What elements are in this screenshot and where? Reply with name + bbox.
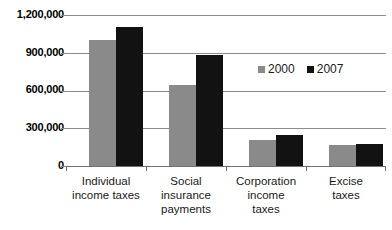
y-axis-label-600000: 600,000 xyxy=(0,84,64,95)
legend-entry-2000: 2000 xyxy=(258,62,295,76)
bar-corporation-income-taxes-2000 xyxy=(249,140,276,166)
legend-swatch-2007-icon xyxy=(307,66,314,73)
bar-individual-income-taxes-2000 xyxy=(89,40,116,166)
bar-excise-taxes-2000 xyxy=(329,145,356,166)
y-axis-label-0: 0 xyxy=(0,160,64,171)
x-tick-1 xyxy=(146,166,147,171)
y-tick-300000 xyxy=(61,128,66,129)
y-tick-1200000 xyxy=(61,15,66,16)
y-tick-900000 xyxy=(61,53,66,54)
legend: 2000 2007 xyxy=(258,62,343,76)
y-axis-label-900000: 900,000 xyxy=(0,47,64,58)
legend-entry-2007: 2007 xyxy=(307,62,344,76)
plot-area xyxy=(66,15,386,166)
bar-social-insurance-payments-2007 xyxy=(196,55,223,166)
y-tick-600000 xyxy=(61,91,66,92)
x-tick-4 xyxy=(385,166,386,171)
gridline-1200000 xyxy=(66,15,386,16)
bar-chart: 1,200,000 900,000 600,000 300,000 0 xyxy=(0,0,392,230)
x-axis-label-excise-taxes: Excise taxes xyxy=(296,174,392,202)
bar-social-insurance-payments-2000 xyxy=(169,85,196,166)
legend-label-2007: 2007 xyxy=(317,62,344,76)
y-axis-label-1200000: 1,200,000 xyxy=(0,9,64,20)
x-tick-2 xyxy=(226,166,227,171)
x-tick-3 xyxy=(306,166,307,171)
bar-individual-income-taxes-2007 xyxy=(116,27,143,166)
legend-label-2000: 2000 xyxy=(268,62,295,76)
legend-swatch-2000-icon xyxy=(258,66,265,73)
bar-excise-taxes-2007 xyxy=(356,144,383,166)
bar-corporation-income-taxes-2007 xyxy=(276,135,303,167)
x-tick-0 xyxy=(66,166,67,171)
y-axis-label-300000: 300,000 xyxy=(0,122,64,133)
